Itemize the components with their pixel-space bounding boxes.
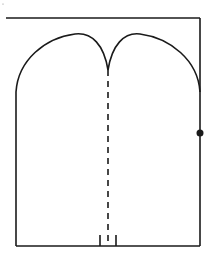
right-wall-dot xyxy=(197,130,204,137)
right-arch xyxy=(108,34,200,92)
left-arch xyxy=(16,34,108,92)
double-arch-diagram xyxy=(0,0,214,260)
corner-speck xyxy=(2,3,3,4)
